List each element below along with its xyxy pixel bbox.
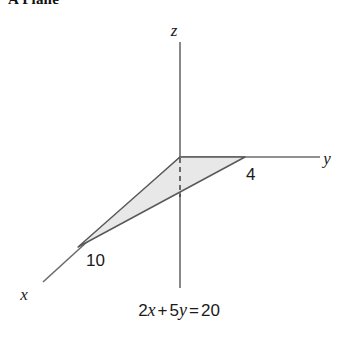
shaded-plane-region: [78, 157, 245, 247]
equation-equals-sign: =: [187, 301, 201, 320]
figure-container: A Plane z y x 10 4 2x+5y=20: [0, 0, 358, 350]
z-axis-label: z: [170, 21, 178, 40]
equation-coef-y: 5: [170, 301, 179, 320]
equation-rhs: 20: [201, 301, 220, 320]
equation-caption: 2x+5y=20: [0, 300, 358, 321]
equation-plus-sign: +: [156, 301, 170, 320]
x-intercept-label: 10: [86, 251, 105, 270]
plane-diagram: z y x 10 4: [0, 0, 358, 350]
equation-coef-x: 2: [138, 301, 147, 320]
equation-var-y: y: [179, 300, 187, 320]
y-intercept-label: 4: [246, 165, 255, 184]
y-axis-label: y: [321, 149, 331, 168]
equation-var-x: x: [148, 300, 156, 320]
